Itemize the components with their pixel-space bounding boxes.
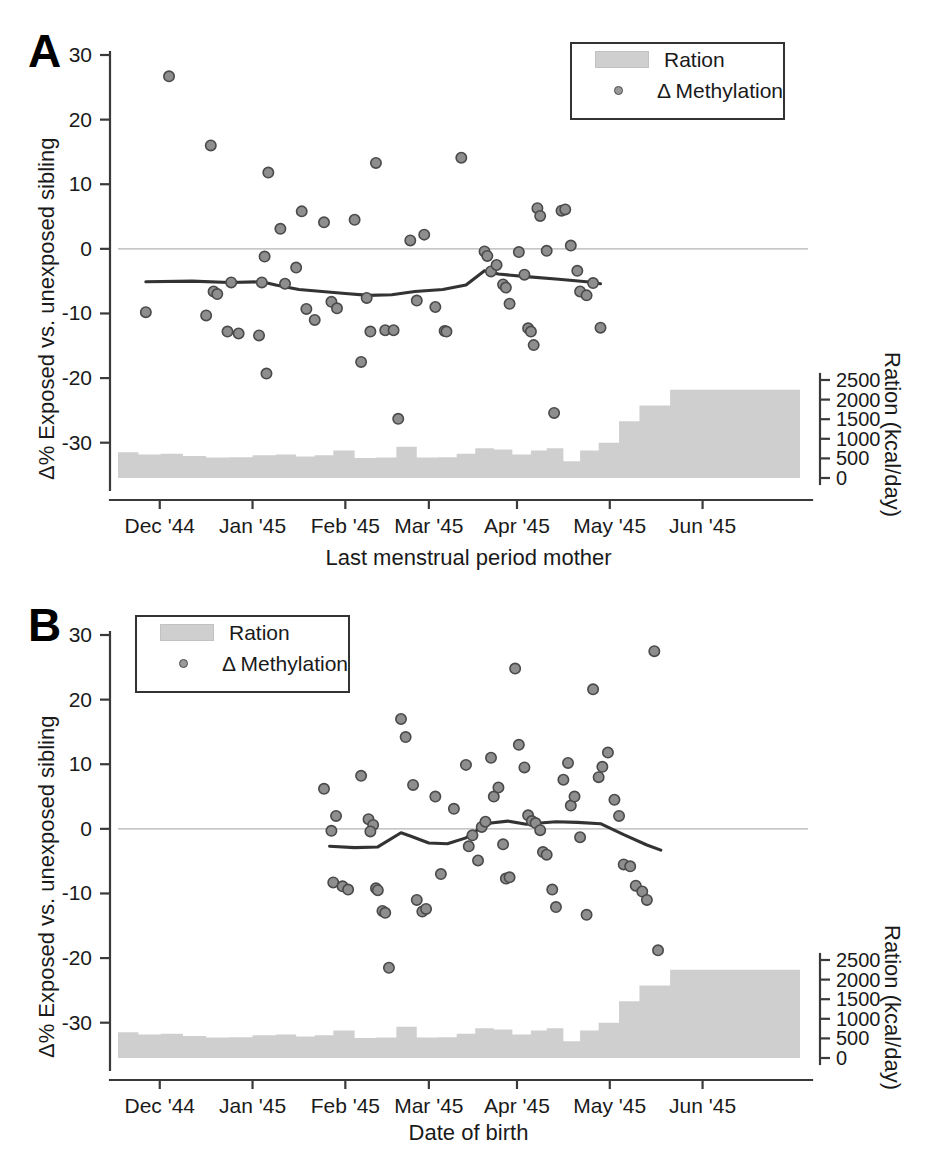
data-point — [504, 299, 514, 309]
x-tick-label: May '45 — [573, 514, 646, 537]
y-tick-label: -20 — [62, 946, 92, 969]
y-tick-label: 30 — [69, 43, 92, 66]
data-point — [365, 826, 375, 836]
data-point — [625, 861, 635, 871]
x-tick-label: Apr '45 — [484, 1094, 550, 1117]
data-point — [473, 855, 483, 865]
data-point — [164, 71, 174, 81]
legend-item-ration: Ration — [572, 44, 783, 75]
data-point — [421, 904, 431, 914]
y-tick-label: -20 — [62, 366, 92, 389]
y-tick-label: 20 — [69, 688, 92, 711]
data-point — [514, 247, 524, 257]
data-point — [365, 326, 375, 336]
data-point — [263, 167, 273, 177]
data-point — [212, 289, 222, 299]
y-tick-label: 10 — [69, 752, 92, 775]
data-point — [275, 224, 285, 234]
data-point — [603, 747, 613, 757]
data-point — [614, 811, 624, 821]
data-point — [206, 140, 216, 150]
data-point — [419, 229, 429, 239]
data-point — [400, 732, 410, 742]
data-point — [456, 153, 466, 163]
data-point — [291, 262, 301, 272]
data-point — [595, 322, 605, 332]
ration-swatch-icon — [586, 51, 658, 68]
data-point — [588, 684, 598, 694]
x-tick-label: Jan '45 — [219, 514, 286, 537]
data-point — [588, 278, 598, 288]
panel-a: A Δ% Exposed vs. unexposed sibling Ratio… — [0, 0, 937, 580]
y-tick-label: 20 — [69, 108, 92, 131]
panel-b-legend: Ration Δ Methylation — [135, 615, 350, 693]
data-point — [464, 841, 474, 851]
y-tick-label: 30 — [69, 623, 92, 646]
data-point — [361, 293, 371, 303]
data-point — [349, 215, 359, 225]
data-point — [498, 839, 508, 849]
data-point — [642, 895, 652, 905]
scatter-dot-icon — [151, 659, 216, 668]
y-tick-label: -30 — [62, 431, 92, 454]
legend-label-ration: Ration — [223, 621, 290, 645]
data-point — [412, 295, 422, 305]
data-point — [331, 811, 341, 821]
data-point — [510, 663, 520, 673]
x-tick-label: Dec '44 — [124, 1094, 195, 1117]
data-point — [356, 357, 366, 367]
data-point — [549, 408, 559, 418]
data-point — [430, 302, 440, 312]
data-point — [528, 340, 538, 350]
panel-a-plot: 3020100-10-20-3025002000150010005000Dec … — [0, 0, 937, 580]
data-point — [519, 762, 529, 772]
legend-label-methylation: Δ Methylation — [651, 79, 783, 103]
x-tick-label: Feb '45 — [311, 514, 380, 537]
y-tick-label: -10 — [62, 301, 92, 324]
data-point — [572, 266, 582, 276]
data-point — [380, 908, 390, 918]
y-tick-label: 0 — [80, 817, 92, 840]
x-tick-label: Jun '45 — [669, 514, 736, 537]
data-point — [396, 714, 406, 724]
data-point — [547, 884, 557, 894]
trend-line — [330, 821, 661, 850]
data-point — [504, 872, 514, 882]
data-point — [332, 303, 342, 313]
data-point — [141, 307, 151, 317]
data-point — [653, 945, 663, 955]
data-point — [430, 791, 440, 801]
data-point — [535, 211, 545, 221]
legend-item-methylation: Δ Methylation — [572, 75, 783, 106]
data-point — [226, 277, 236, 287]
data-point — [566, 240, 576, 250]
x-tick-label: Feb '45 — [311, 1094, 380, 1117]
data-point — [526, 326, 536, 336]
data-point — [222, 326, 232, 336]
data-point — [581, 290, 591, 300]
data-point — [436, 869, 446, 879]
data-point — [461, 760, 471, 770]
y-tick-label: -10 — [62, 881, 92, 904]
scatter-dot-icon — [586, 86, 651, 95]
data-point — [326, 826, 336, 836]
data-point — [412, 895, 422, 905]
data-point — [301, 304, 311, 314]
ration-area — [118, 390, 800, 478]
data-point — [405, 235, 415, 245]
right-y-tick-label: 0 — [836, 1047, 847, 1069]
data-point — [480, 817, 490, 827]
scatter-points — [141, 71, 606, 424]
data-point — [560, 204, 570, 214]
data-point — [384, 963, 394, 973]
data-point — [319, 784, 329, 794]
data-point — [551, 902, 561, 912]
data-point — [569, 791, 579, 801]
x-tick-label: Apr '45 — [484, 514, 550, 537]
data-point — [408, 780, 418, 790]
data-point — [486, 753, 496, 763]
data-point — [388, 325, 398, 335]
legend-item-ration: Ration — [137, 617, 348, 648]
right-y-tick-label: 0 — [836, 467, 847, 489]
data-point — [371, 158, 381, 168]
